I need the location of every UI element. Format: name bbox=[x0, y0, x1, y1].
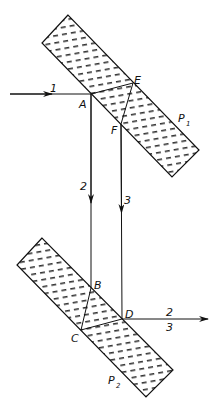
label-point-c: C bbox=[71, 332, 79, 345]
label-ray-3: 3 bbox=[124, 194, 131, 207]
label-point-a: A bbox=[78, 98, 87, 111]
label-plate-p2-sub: 2 bbox=[116, 382, 121, 390]
label-plate-p1-sub: 1 bbox=[186, 120, 190, 128]
label-ray-1: 1 bbox=[50, 82, 57, 95]
optics-diagram: 1 A E F P 1 2 3 B D C 2 3 P 2 bbox=[0, 0, 222, 412]
plate-p1 bbox=[42, 15, 199, 177]
label-ray-2: 2 bbox=[80, 180, 87, 193]
label-plate-p2: P bbox=[108, 374, 115, 387]
label-point-f: F bbox=[111, 124, 118, 137]
plate-p2 bbox=[17, 238, 173, 397]
label-point-d: D bbox=[125, 308, 133, 321]
label-point-e: E bbox=[134, 74, 141, 87]
label-point-b: B bbox=[94, 279, 102, 292]
label-out-2: 2 bbox=[166, 306, 173, 319]
label-plate-p1: P bbox=[178, 112, 185, 125]
label-out-3: 3 bbox=[166, 321, 173, 334]
